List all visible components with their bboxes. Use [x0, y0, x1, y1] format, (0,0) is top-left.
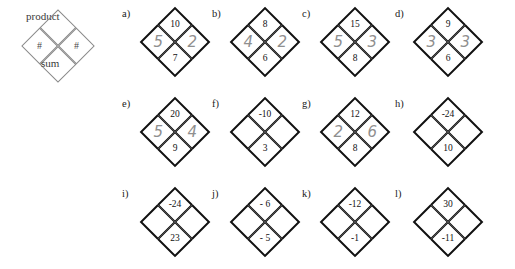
puzzle-l: l)30-11: [412, 186, 484, 258]
puzzle-label: c): [302, 8, 310, 19]
puzzle-label: f): [212, 98, 219, 109]
puzzle-d: d)9336: [412, 6, 484, 78]
top-value: 15: [350, 20, 360, 29]
bottom-value: -1: [351, 234, 359, 244]
top-value: -24: [442, 110, 455, 120]
bottom-value: 9: [173, 144, 178, 154]
puzzle-g: g)12628: [319, 96, 391, 168]
diamond: - 6- 5: [230, 187, 301, 258]
diamond: 10257: [140, 7, 211, 78]
right-value: 3: [367, 35, 376, 50]
puzzle-f: f)-103: [229, 96, 301, 168]
diamond: -103: [230, 97, 301, 168]
key-sum-label: sum: [41, 57, 59, 69]
left-value: 5: [154, 125, 163, 140]
puzzle-label: h): [395, 98, 404, 109]
puzzle-e: e)20459: [139, 96, 211, 168]
puzzle-b: b)8246: [229, 6, 301, 78]
diamond: 9336: [413, 7, 484, 78]
bottom-value: 8: [353, 54, 358, 64]
top-value: 12: [350, 110, 360, 120]
puzzle-h: h)-2410: [412, 96, 484, 168]
top-value: -10: [259, 110, 272, 120]
bottom-value: 3: [263, 144, 268, 154]
bottom-value: -11: [442, 234, 454, 244]
puzzle-a: a)10257: [139, 6, 211, 78]
diamond: -12-1: [320, 187, 391, 258]
puzzle-label: d): [395, 8, 404, 19]
diamond: 20459: [140, 97, 211, 168]
left-value: 2: [334, 125, 343, 140]
puzzle-label: k): [302, 188, 311, 199]
top-value: 8: [263, 20, 268, 29]
bottom-value: 23: [170, 234, 180, 244]
top-value: 9: [446, 20, 451, 29]
number-diamond-key: product # # sum: [17, 7, 109, 83]
puzzle-label: j): [212, 188, 218, 199]
diamond: 12628: [320, 97, 391, 168]
diamond: -2410: [413, 97, 484, 168]
bottom-value: 6: [446, 54, 451, 64]
key-right-value: #: [74, 41, 79, 51]
right-value: 3: [460, 35, 469, 50]
bottom-value: - 5: [260, 234, 270, 244]
bottom-value: 8: [353, 144, 358, 154]
bottom-value: 10: [443, 144, 453, 154]
left-value: 5: [154, 35, 163, 50]
puzzle-label: b): [212, 8, 221, 19]
puzzle-label: e): [122, 98, 130, 109]
diamond: 8246: [230, 7, 301, 78]
left-value: 4: [244, 35, 253, 50]
left-value: 5: [334, 35, 343, 50]
key-left-value: #: [37, 41, 42, 51]
top-value: 10: [170, 20, 180, 29]
puzzle-j: j)- 6- 5: [229, 186, 301, 258]
top-value: -12: [349, 200, 362, 210]
diamond: -2423: [140, 187, 211, 258]
top-value: -24: [169, 200, 182, 210]
right-value: 2: [277, 35, 286, 50]
diamond: 30-11: [413, 187, 484, 258]
puzzle-label: i): [122, 188, 128, 199]
puzzle-label: a): [122, 8, 130, 19]
diamond: 15358: [320, 7, 391, 78]
top-value: 30: [443, 200, 453, 210]
puzzle-c: c)15358: [319, 6, 391, 78]
puzzle-k: k)-12-1: [319, 186, 391, 258]
top-value: 20: [170, 110, 180, 120]
right-value: 2: [187, 35, 196, 50]
right-value: 4: [187, 125, 196, 140]
puzzle-label: g): [302, 98, 311, 109]
puzzle-i: i)-2423: [139, 186, 211, 258]
puzzle-label: l): [395, 188, 401, 199]
top-value: - 6: [260, 200, 270, 210]
bottom-value: 7: [173, 54, 178, 64]
right-value: 6: [367, 125, 376, 140]
left-value: 3: [427, 35, 436, 50]
bottom-value: 6: [263, 54, 268, 64]
